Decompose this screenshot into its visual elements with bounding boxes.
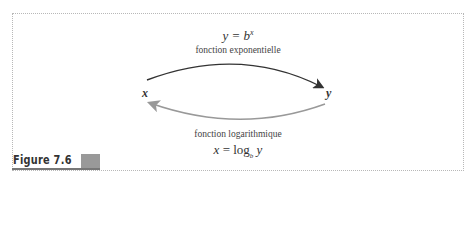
figure-label: Figure 7.6 <box>13 153 72 167</box>
logarithmic-arrow <box>150 103 325 119</box>
logarithmic-function-label: fonction logarithmique <box>0 129 476 139</box>
variable-x: x <box>142 86 148 101</box>
variable-y: y <box>326 86 331 101</box>
figure-label-underline <box>12 168 100 170</box>
exponential-arrow <box>147 64 322 87</box>
